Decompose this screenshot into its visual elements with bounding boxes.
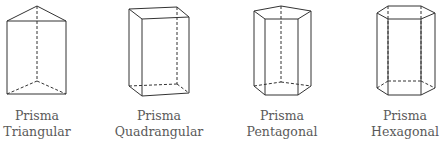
label-line1: Prisma — [350, 108, 445, 124]
label-line2: Pentagonal — [227, 124, 337, 140]
hexagonal-prism — [377, 6, 435, 95]
label-line1: Prisma — [0, 108, 92, 124]
label-triangular-prism: Prisma Triangular — [0, 108, 92, 140]
label-line1: Prisma — [104, 108, 214, 124]
triangular-prism — [7, 6, 66, 94]
label-line1: Prisma — [227, 108, 337, 124]
pentagonal-prism — [254, 6, 311, 95]
label-quadrangular-prism: Prisma Quadrangular — [104, 108, 214, 140]
label-hexagonal-prism: Prisma Hexagonal — [350, 108, 445, 140]
label-pentagonal-prism: Prisma Pentagonal — [227, 108, 337, 140]
quadrangular-prism — [129, 7, 189, 96]
label-line2: Triangular — [0, 124, 92, 140]
label-line2: Quadrangular — [104, 124, 214, 140]
label-line2: Hexagonal — [350, 124, 445, 140]
